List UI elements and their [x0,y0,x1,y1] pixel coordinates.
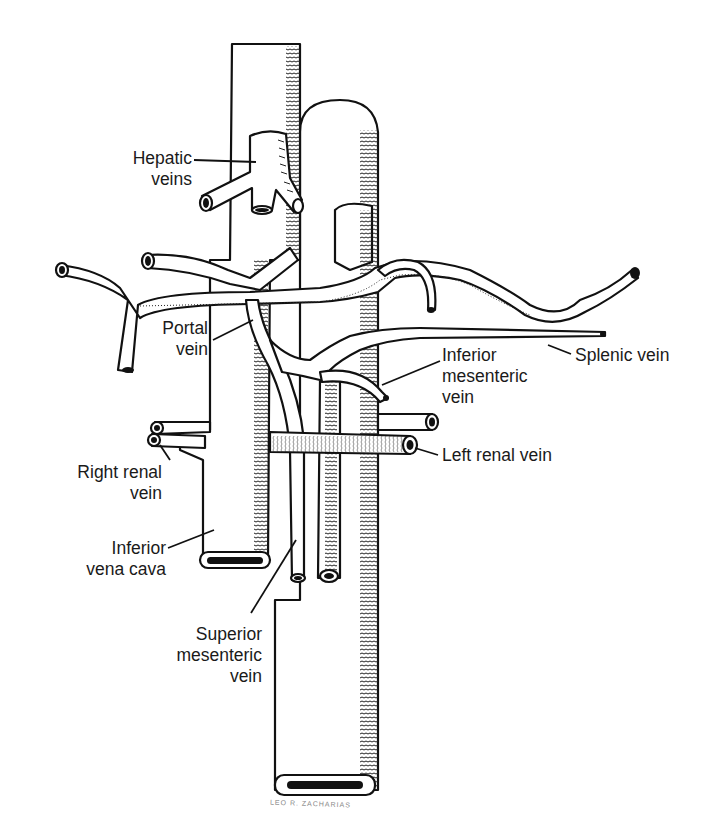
portal-venous-system-illustration [0,0,722,838]
leader-splenic-vein [548,345,571,354]
hepatic-veins-vessel [200,131,303,214]
label-inferior-mesenteric-vein: Inferior mesenteric vein [442,345,528,408]
label-inferior-vena-cava: Inferior vena cava [64,538,166,580]
label-splenic-vein: Splenic vein [575,345,669,366]
label-superior-mesenteric-vein: Superior mesenteric vein [160,624,262,687]
leader-inferior-mesenteric-vein [382,361,440,385]
label-hepatic-veins: Hepatic veins [108,148,192,190]
label-right-renal-vein: Right renal vein [60,462,162,504]
label-portal-vein: Portal vein [140,318,208,360]
leader-left-renal-vein [415,448,438,455]
label-left-renal-vein: Left renal vein [442,445,552,466]
